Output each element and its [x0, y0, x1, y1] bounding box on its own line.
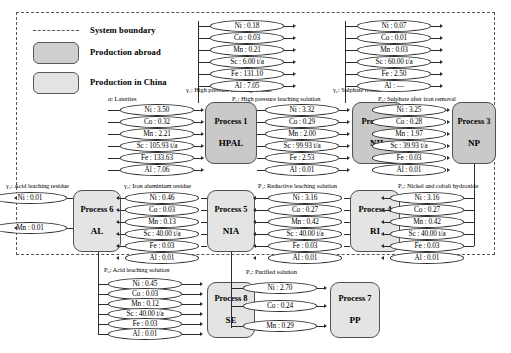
p1-arrow-5	[347, 168, 350, 172]
legend-abroad-label: Production abroad	[90, 47, 161, 57]
alpha-value-3: Sc : 105.93 t/a	[120, 140, 194, 152]
p1-value-3: Sc : 99.93 t/a	[265, 140, 339, 152]
p1-value-5: Al : 0.01	[265, 164, 339, 176]
p1-arrow-4	[347, 156, 350, 160]
p1-lead-1	[257, 122, 265, 123]
legend-swatch-china	[33, 72, 79, 94]
p1-arrow-0	[347, 108, 350, 112]
p7-label: P₇: Purified solution	[246, 268, 297, 275]
legend-china-label: Production in China	[90, 77, 167, 87]
flow-diagram: System boundary Production abroad Produc…	[0, 0, 511, 353]
gamma1-arrow-2	[293, 48, 296, 52]
p1-arrow-1	[347, 120, 350, 124]
p1-label: P₁: High pressure leaching solution	[232, 95, 321, 102]
p2-value-3: Sc : 39.93 t/a	[372, 140, 446, 152]
gamma1-stub-2	[198, 50, 210, 51]
p7-arrow-1	[324, 304, 327, 308]
process-box-np[interactable]: Process 3 NP	[452, 102, 496, 164]
alpha-lead-4	[108, 158, 120, 159]
process-box-pp[interactable]: Process 7 PP	[330, 282, 380, 338]
p2-value-4: Fe : 0.03	[372, 152, 446, 164]
p1-lead-5	[257, 170, 265, 171]
alpha-value-1: Co : 0.32	[120, 116, 194, 128]
p6-tail-2	[182, 304, 200, 305]
gamma3-arrow-3	[116, 232, 119, 236]
gamma3-arrow-1	[116, 208, 119, 212]
gamma2-stub-2	[345, 50, 357, 51]
gamma2-value-0: Ni : 0.07	[357, 20, 431, 32]
p6-lead-0	[98, 284, 108, 285]
p2-arrow-4	[447, 156, 450, 160]
p2-value-0: Ni : 3.25	[372, 104, 446, 116]
p3-value-5: Al : 0.01	[390, 252, 464, 264]
process-5-number: Process 5	[214, 205, 247, 214]
gamma1-arrow-5	[293, 84, 296, 88]
gamma3-value-1: Co : 0.03	[125, 204, 199, 216]
p3-tail-0	[384, 198, 390, 199]
p3-value-1: Co : 0.27	[390, 204, 464, 216]
p7-lead-1	[231, 306, 243, 307]
p3-label: P₃: Nickel and cobalt hydroxide	[398, 182, 478, 189]
gamma2-stub-4	[345, 74, 357, 75]
p1-tail-0	[339, 110, 347, 111]
p6-lead-4	[98, 324, 108, 325]
gamma1-value-4: Fe : 131.10	[210, 68, 284, 80]
alpha-value-2: Mn : 2.21	[120, 128, 194, 140]
p1-tail-2	[339, 134, 347, 135]
process-7-number: Process 7	[338, 294, 371, 303]
gamma3-tail-2	[119, 222, 125, 223]
gamma3-lead-1	[201, 210, 207, 211]
p2-value-1: Co : 0.28	[372, 116, 446, 128]
gamma1-stub-3	[198, 62, 210, 63]
p3-lead-3	[464, 234, 474, 235]
p6-lead-1	[98, 294, 108, 295]
p7-value-0: Ni : 2.70	[243, 282, 317, 294]
gamma3-tail-3	[119, 234, 125, 235]
p3-arrow-1	[381, 208, 384, 212]
p3-lead-0	[464, 198, 474, 199]
alpha-arrow-2	[201, 132, 204, 136]
alpha-arrow-1	[201, 120, 204, 124]
p3-arrow-3	[381, 232, 384, 236]
p2-label: P₂: Sulphate after iron removal	[378, 95, 456, 102]
gamma1-arrow-4	[293, 72, 296, 76]
gamma1-value-2: Mn : 0.21	[210, 44, 284, 56]
p2-arrow-0	[447, 108, 450, 112]
p6-bus-v	[98, 252, 99, 278]
gamma1-arrow-3	[293, 60, 296, 64]
process-box-nia[interactable]: Process 5 NIA	[207, 190, 255, 252]
p7-arrow-0	[324, 286, 327, 290]
alpha-lead-3	[108, 146, 120, 147]
p2-arrow-2	[447, 132, 450, 136]
process-box-hpal[interactable]: Process 1 HPAL	[205, 102, 257, 164]
p2-value-5: Al : 0.01	[372, 164, 446, 176]
gamma1-value-5: Al : 7.05	[210, 80, 284, 92]
p4-lead-2	[344, 222, 350, 223]
gamma3-arrow-0	[116, 196, 119, 200]
gamma1-stub-4	[198, 74, 210, 75]
process-3-abbr: NP	[468, 139, 480, 149]
p1-lead-0	[257, 110, 265, 111]
gamma3-value-2: Mn : 0.13	[125, 216, 199, 228]
p1-lead-3	[257, 146, 265, 147]
p6-tail-0	[182, 284, 200, 285]
p3-tail-3	[384, 234, 390, 235]
legend-swatch-abroad	[33, 42, 79, 64]
gamma3-tail-0	[119, 198, 125, 199]
gamma4-label: γ₄: Acid leaching residue	[6, 182, 69, 189]
gamma1-stub-0	[198, 26, 210, 27]
gamma1-arrow-1	[293, 36, 296, 40]
p3-arrow-5	[381, 256, 384, 260]
alpha-arrow-0	[201, 108, 204, 112]
alpha-lead-2	[108, 134, 120, 135]
p1-value-0: Ni : 3.32	[265, 104, 339, 116]
gamma1-arrow-0	[293, 24, 296, 28]
p3-tail-1	[384, 210, 390, 211]
p4-lead-1	[344, 210, 350, 211]
alpha-lead-0	[108, 110, 120, 111]
gamma2-arrow-2	[440, 48, 443, 52]
p3-tail-2	[384, 222, 390, 223]
process-box-al[interactable]: Process 6 AL	[73, 190, 121, 252]
p3-value-2: Mn : 0.42	[390, 216, 464, 228]
gamma1-stub-5	[198, 86, 210, 87]
